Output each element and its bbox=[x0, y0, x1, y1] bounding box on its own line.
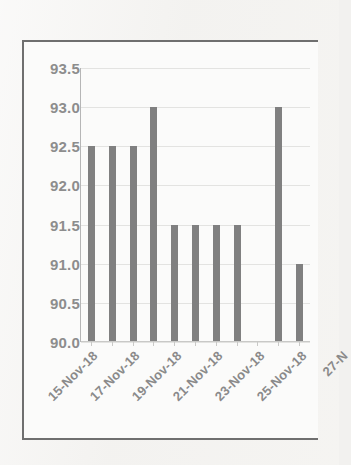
bar-slot bbox=[227, 68, 248, 342]
bar-slot bbox=[185, 68, 206, 342]
bar[interactable] bbox=[234, 225, 241, 342]
bar[interactable] bbox=[296, 264, 303, 342]
bar[interactable] bbox=[275, 107, 282, 342]
y-axis-tick-label: 92.5 bbox=[50, 138, 80, 155]
y-axis-tick-label: 91.5 bbox=[50, 216, 80, 233]
bar-series bbox=[81, 68, 310, 342]
bar[interactable] bbox=[150, 107, 157, 342]
chart-frame: 93.593.092.592.091.591.090.590.0 15-Nov-… bbox=[22, 40, 318, 440]
y-axis-tick-label: 90.5 bbox=[50, 294, 80, 311]
bar-slot bbox=[164, 68, 185, 342]
bar-slot bbox=[102, 68, 123, 342]
bar[interactable] bbox=[213, 225, 220, 342]
y-axis-tick-label: 93.5 bbox=[50, 60, 80, 77]
label-clip-mask bbox=[314, 42, 318, 438]
chart-plot-wrapper: 93.593.092.592.091.591.090.590.0 15-Nov-… bbox=[24, 42, 316, 438]
bar-slot bbox=[81, 68, 102, 342]
plot-area bbox=[80, 68, 310, 342]
y-axis-tick-label: 93.0 bbox=[50, 99, 80, 116]
bar[interactable] bbox=[88, 146, 95, 342]
x-axis-tick-label: 27-N bbox=[320, 348, 351, 379]
bar-slot bbox=[268, 68, 289, 342]
bar-slot bbox=[123, 68, 144, 342]
y-axis-tick-label: 92.0 bbox=[50, 177, 80, 194]
bar-slot bbox=[206, 68, 227, 342]
bar[interactable] bbox=[192, 225, 199, 342]
bar-slot bbox=[289, 68, 310, 342]
y-axis-tick-label: 91.0 bbox=[50, 255, 80, 272]
bar-slot bbox=[143, 68, 164, 342]
bar[interactable] bbox=[109, 146, 116, 342]
y-axis-tick-label: 90.0 bbox=[50, 334, 80, 351]
bar-slot bbox=[248, 68, 269, 342]
bar[interactable] bbox=[130, 146, 137, 342]
x-axis: 15-Nov-1817-Nov-1819-Nov-1821-Nov-1823-N… bbox=[80, 342, 310, 438]
bar[interactable] bbox=[171, 225, 178, 342]
